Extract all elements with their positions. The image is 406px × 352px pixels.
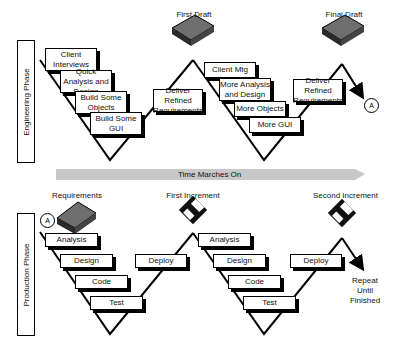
prod2-test: Test — [243, 296, 296, 310]
prod2-design: Design — [213, 254, 266, 268]
second-increment-label: Second Increment — [313, 191, 375, 201]
deliver-refined-requirements-1: Deliver Refined Requirements — [153, 89, 203, 112]
prod1-code: Code — [75, 275, 128, 289]
prod1-design: Design — [60, 254, 113, 268]
timeline-label: Time Marches On — [178, 170, 241, 179]
prod1-analysis: Analysis — [45, 233, 98, 247]
repeat-until-finished-label: Repeat Until Finished — [345, 276, 385, 306]
step-build-gui: Build Some GUI — [90, 112, 142, 135]
production-phase-label: Production Phase — [17, 213, 35, 336]
step-client-mtg: Client Mtg — [204, 62, 256, 78]
connector-a-engineering: A — [364, 98, 379, 113]
deliver-refined-requirements-2: Deliver Refined Requirements — [293, 79, 343, 102]
engineering-phase-label: Engineering Phase — [17, 40, 35, 163]
step-more-analysis: More Analysis and Design — [219, 78, 271, 101]
step-build-objects: Build Some Objects — [75, 91, 127, 114]
first-draft-label: First Draft — [172, 10, 216, 20]
prod2-code: Code — [228, 275, 281, 289]
step-more-gui: More GUI — [249, 117, 301, 133]
final-draft-label: Final Draft — [322, 10, 366, 20]
step-quick-analysis: Quick Analysis and Design — [60, 70, 112, 93]
eng-arrow-to-a — [342, 64, 362, 96]
floppy-disk-icon-second-increment — [328, 199, 356, 227]
prod2-deploy: Deploy — [290, 254, 342, 268]
prod1-deploy: Deploy — [135, 254, 187, 268]
book-icon-requirements — [57, 202, 96, 234]
requirements-label: Requirements — [52, 191, 102, 201]
step-more-objects: More Objects — [234, 101, 286, 117]
connector-a-production: A — [40, 213, 55, 228]
first-increment-label: First Increment — [165, 191, 221, 201]
prod2-analysis: Analysis — [198, 233, 251, 247]
prod1-test: Test — [90, 296, 143, 310]
repeat-arrow — [342, 238, 362, 268]
